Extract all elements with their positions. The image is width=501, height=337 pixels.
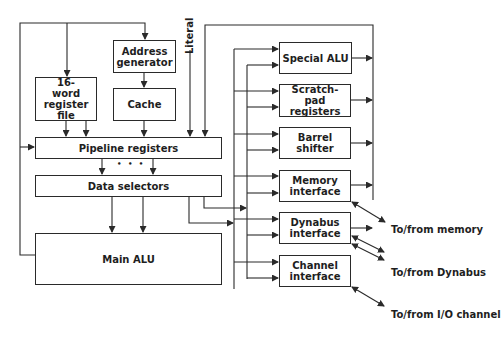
data-selectors-block: Data selectors <box>35 175 222 197</box>
cache-block: Cache <box>113 88 176 121</box>
pipeline-registers-block: Pipeline registers <box>35 137 222 159</box>
dynabus-interface-block: Dynabus interface <box>279 212 351 244</box>
channel-interface-block: Channel interface <box>279 255 351 287</box>
to-from-memory-label: To/from memory <box>391 224 483 235</box>
to-from-dynabus-label: To/from Dynabus <box>391 267 486 278</box>
memory-interface-block: Memory interface <box>279 170 351 202</box>
address-generator-block: Address generator <box>113 40 176 73</box>
ellipsis: • • • <box>117 160 145 168</box>
register-file-block: 16-word register file <box>35 77 97 121</box>
barrel-shifter-block: Barrel shifter <box>279 127 351 159</box>
to-from-io-label: To/from I/O channel <box>391 309 501 320</box>
scratch-pad-block: Scratch-pad registers <box>279 84 351 117</box>
special-alu-block: Special ALU <box>279 42 352 74</box>
main-alu-block: Main ALU <box>35 233 222 285</box>
literal-label: Literal <box>184 18 195 54</box>
